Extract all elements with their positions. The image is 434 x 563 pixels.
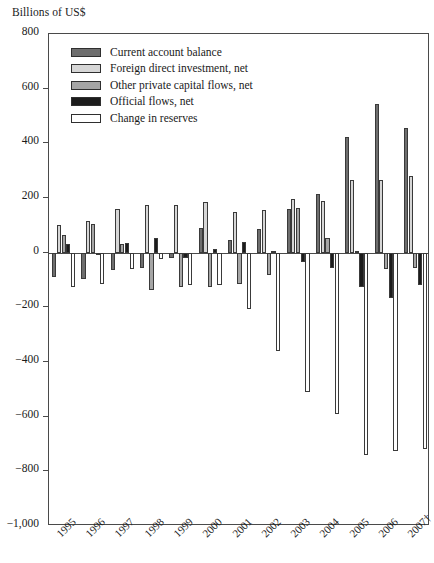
bar (62, 235, 66, 253)
bar (199, 228, 203, 253)
bar (350, 180, 354, 252)
bar (71, 253, 75, 287)
legend-label: Foreign direct investment, net (110, 63, 248, 75)
bar (115, 209, 119, 253)
legend-swatch (71, 64, 101, 73)
bar (335, 253, 339, 414)
bar (325, 238, 329, 253)
y-axis-tick-label: −800 (15, 462, 39, 474)
bar (57, 225, 61, 252)
bar (423, 253, 427, 450)
bar (140, 253, 144, 268)
chart-legend: Current account balanceForeign direct in… (71, 44, 253, 127)
legend-item: Official flows, net (71, 94, 253, 111)
legend-item: Current account balance (71, 44, 253, 61)
bar (276, 253, 280, 351)
bar (213, 249, 217, 253)
bar (66, 244, 70, 252)
legend-item: Change in reserves (71, 110, 253, 127)
bar (217, 253, 221, 286)
bar (149, 253, 153, 290)
bar (355, 251, 359, 253)
bar (125, 243, 129, 253)
bar (364, 253, 368, 455)
bar (188, 253, 192, 286)
bar (237, 253, 241, 284)
y-axis-tick-label: −200 (15, 298, 39, 310)
y-axis-tick-label: −400 (15, 353, 39, 365)
bar (296, 208, 300, 253)
bar (86, 221, 90, 252)
legend-swatch (71, 97, 101, 106)
legend-label: Official flows, net (110, 96, 194, 108)
bar (174, 205, 178, 253)
plot-area: Current account balanceForeign direct in… (48, 33, 429, 525)
y-axis-tick-label: 400 (22, 134, 39, 146)
legend-label: Current account balance (110, 47, 222, 59)
bar (316, 194, 320, 253)
bar (247, 253, 251, 309)
bar (305, 253, 309, 392)
bar-group (371, 34, 400, 524)
y-axis-tick-label: 600 (22, 80, 39, 92)
y-axis-tick-label: −1,000 (7, 517, 39, 529)
bar (233, 212, 237, 253)
legend-label: Change in reserves (110, 113, 198, 125)
bar (418, 253, 422, 286)
bar (393, 253, 397, 451)
bar (321, 201, 325, 253)
bar-group (283, 34, 312, 524)
bar-group (313, 34, 342, 524)
bar (271, 251, 275, 253)
bar (91, 224, 95, 253)
bar-group (401, 34, 430, 524)
bar (169, 253, 173, 258)
bar (183, 253, 187, 258)
legend-swatch (71, 81, 101, 90)
bar (130, 253, 134, 269)
bar (375, 104, 379, 253)
bar (301, 253, 305, 263)
bar (81, 253, 85, 279)
legend-item: Foreign direct investment, net (71, 61, 253, 78)
bar (111, 253, 115, 271)
bar (389, 253, 393, 298)
bar (330, 253, 334, 268)
bar (409, 176, 413, 253)
y-axis: 8006004002000−200−400−600−800−1,000 (0, 0, 48, 563)
bar (52, 253, 56, 278)
y-axis-tick-label: 200 (22, 189, 39, 201)
bar (413, 253, 417, 268)
bar (242, 242, 246, 253)
bar (257, 229, 261, 252)
bar-group (254, 34, 283, 524)
bar (154, 238, 158, 253)
bar (262, 210, 266, 252)
bar (359, 253, 363, 287)
bar (345, 137, 349, 253)
bar (384, 253, 388, 269)
bar (203, 202, 207, 253)
bar (179, 253, 183, 287)
bar (145, 205, 149, 253)
bar (404, 128, 408, 252)
bar (120, 244, 124, 252)
bar (379, 180, 383, 252)
bar (287, 209, 291, 253)
y-axis-tick-label: −600 (15, 408, 39, 420)
bar-group (342, 34, 371, 524)
y-axis-tick-label: 800 (22, 25, 39, 37)
legend-swatch (71, 48, 101, 57)
bar (96, 253, 100, 255)
bar (291, 199, 295, 252)
bar (208, 253, 212, 287)
bar (228, 240, 232, 252)
legend-item: Other private capital flows, net (71, 77, 253, 94)
legend-label: Other private capital flows, net (110, 80, 253, 92)
y-axis-tick-label: 0 (33, 244, 39, 256)
legend-swatch (71, 114, 101, 123)
bar (267, 253, 271, 275)
bar (100, 253, 104, 284)
bar (159, 253, 163, 260)
